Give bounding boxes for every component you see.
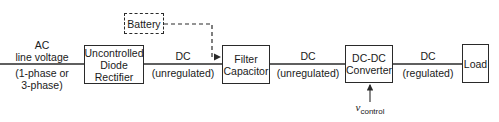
dc-label-3: DC — [396, 50, 460, 62]
dc-dc-converter-block: DC-DC Converter — [345, 45, 393, 83]
unregulated-label-2: (unregulated) — [274, 67, 342, 79]
regulated-label: (regulated) — [396, 67, 460, 79]
phase-label: (1-phase or 3-phase) — [10, 67, 74, 91]
dc-label-2: DC — [274, 50, 342, 62]
ac-label: AC line voltage — [14, 39, 70, 63]
rectifier-block: Uncontrolled Diode Rectifier — [84, 45, 144, 84]
load-block: Load — [462, 44, 489, 83]
dc-label-1: DC — [150, 50, 216, 62]
battery-block: Battery — [124, 13, 164, 34]
filter-capacitor-block: Filter Capacitor — [222, 45, 270, 84]
unregulated-label-1: (unregulated) — [150, 67, 216, 79]
v-control-label: vcontrol — [350, 101, 390, 115]
